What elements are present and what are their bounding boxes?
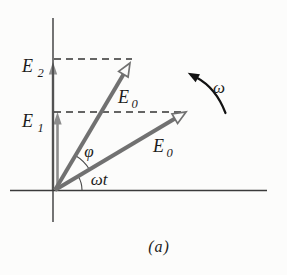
e0-lower-label-base: E xyxy=(152,136,164,156)
lower-phasor-arrowhead-icon xyxy=(172,112,186,123)
upper-phasor-shaft xyxy=(55,74,124,191)
phasor-diagram-figure: E 2 E 1 E 0 E 0 φ ωt ω (a) xyxy=(0,0,287,275)
e0-lower-label: E 0 xyxy=(152,136,174,160)
e1-label-sub: 1 xyxy=(38,121,44,135)
e0-upper-label-base: E xyxy=(117,87,129,107)
e2-label: E 2 xyxy=(21,56,44,80)
e0-upper-label: E 0 xyxy=(117,87,139,111)
omega-t-label: ωt xyxy=(91,170,109,189)
e2-label-base: E xyxy=(21,56,33,76)
phi-label: φ xyxy=(84,142,93,161)
e2-label-sub: 2 xyxy=(38,66,44,80)
figure-caption: (a) xyxy=(148,238,170,256)
e1-label-base: E xyxy=(21,111,33,131)
omega-label: ω xyxy=(213,78,225,97)
e1-label: E 1 xyxy=(21,111,44,135)
rotation-arrowhead-icon xyxy=(188,73,200,83)
e0-upper-label-sub: 0 xyxy=(132,97,139,111)
e1-amplitude-arrowhead-icon xyxy=(53,112,61,125)
phasor-diagram: E 2 E 1 E 0 E 0 φ ωt ω (a) xyxy=(0,0,287,275)
omega-t-angle-arc xyxy=(78,176,82,190)
upper-phasor-arrowhead-icon xyxy=(119,63,130,77)
e0-lower-label-sub: 0 xyxy=(167,146,174,160)
